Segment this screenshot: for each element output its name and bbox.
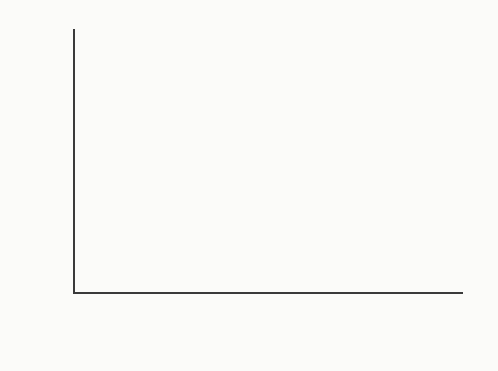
- chart-figure: [0, 0, 498, 371]
- axes: [74, 29, 463, 293]
- axis-spines: [74, 29, 463, 293]
- chart-canvas: [0, 0, 498, 371]
